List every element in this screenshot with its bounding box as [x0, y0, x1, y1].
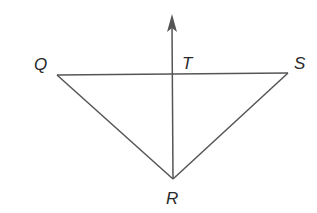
segment-QR	[57, 75, 173, 179]
label-S: S	[294, 54, 306, 73]
geometry-diagram: Q T S R	[0, 0, 317, 213]
diagram-svg: Q T S R	[0, 0, 317, 213]
label-R: R	[166, 189, 178, 208]
segment-SR	[173, 73, 288, 179]
label-T: T	[182, 54, 194, 73]
label-Q: Q	[34, 55, 47, 74]
ray-RT	[172, 24, 173, 179]
